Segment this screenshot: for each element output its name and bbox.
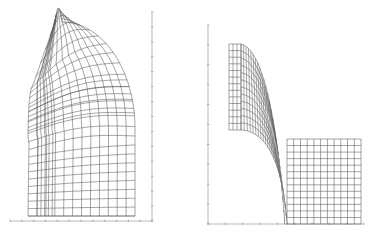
band-cross-line — [249, 49, 251, 132]
mesh-radial-line — [60, 12, 108, 216]
mesh-radial-line — [58, 9, 73, 217]
mesh-radial-line — [43, 15, 56, 216]
mesh-radial-line — [60, 10, 100, 216]
right-mesh-panel — [207, 25, 364, 225]
mesh-arc-line — [28, 126, 135, 142]
mesh-radial-line — [56, 10, 64, 216]
band-cross-line — [251, 51, 253, 133]
band-cross-line — [244, 45, 245, 130]
left-mesh-panel — [10, 8, 154, 222]
band-cross-line — [280, 171, 284, 196]
band-curve-line — [241, 73, 286, 224]
band-curve-line — [241, 94, 286, 224]
mesh-figure — [0, 0, 376, 241]
